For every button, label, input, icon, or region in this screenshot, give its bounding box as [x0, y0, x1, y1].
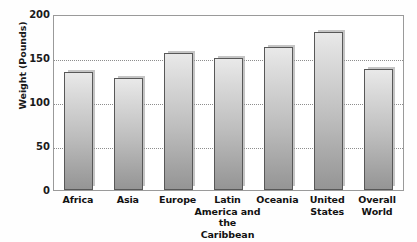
bar-slot	[353, 16, 403, 190]
bar[interactable]	[314, 32, 343, 190]
y-tick-label: 50	[20, 142, 50, 152]
y-tick-label: 200	[20, 10, 50, 20]
bar-slot	[303, 16, 353, 190]
bar-chart: Weight (Pounds) 050100150200 AfricaAsiaE…	[0, 0, 417, 242]
bar-slot	[154, 16, 204, 190]
x-axis-category-labels: AfricaAsiaEuropeLatinAmerica andthe Cari…	[53, 194, 404, 242]
bar-slot	[104, 16, 154, 190]
bar[interactable]	[164, 53, 193, 190]
x-tick-label-line: America and	[195, 206, 261, 218]
y-axis-tick-labels: 050100150200	[18, 0, 50, 242]
bar[interactable]	[114, 78, 143, 190]
bar-slot	[253, 16, 303, 190]
x-tick-label-line: the Caribbean	[195, 217, 261, 240]
x-tick-label: OverallWorld	[344, 194, 410, 217]
bar[interactable]	[264, 47, 293, 190]
plot-area	[53, 15, 404, 191]
bar-slot	[54, 16, 104, 190]
x-tick-label-line: Overall	[344, 194, 410, 206]
bar[interactable]	[364, 69, 393, 190]
bars-layer	[54, 16, 403, 190]
y-tick-label: 100	[20, 98, 50, 108]
bar-slot	[204, 16, 254, 190]
x-tick-label-line: World	[344, 206, 410, 218]
bar[interactable]	[214, 58, 243, 190]
bar[interactable]	[64, 72, 93, 190]
y-tick-label: 150	[20, 54, 50, 64]
